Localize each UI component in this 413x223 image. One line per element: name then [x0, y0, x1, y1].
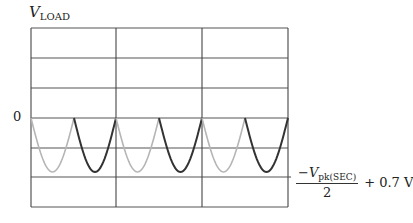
numerator-var: V — [309, 165, 318, 180]
waveform-half-cycle-light — [116, 118, 159, 172]
fraction: −Vpk(SEC) 2 — [296, 165, 358, 200]
numerator-sub: pk(SEC) — [318, 172, 356, 182]
waveform-half-cycle-dark — [74, 118, 116, 172]
fraction-numerator: −Vpk(SEC) — [296, 165, 358, 184]
minus-sign: − — [298, 165, 309, 180]
waveform-half-cycle-light — [202, 118, 245, 172]
fraction-denominator: 2 — [323, 184, 331, 200]
waveform-half-cycle-light — [31, 118, 74, 172]
trough-annotation: −Vpk(SEC) 2 + 0.7 V — [296, 165, 413, 200]
waveform-half-cycle-dark — [159, 118, 202, 172]
offset-term: + 0.7 V — [364, 175, 413, 190]
waveform-half-cycle-dark — [245, 118, 288, 172]
